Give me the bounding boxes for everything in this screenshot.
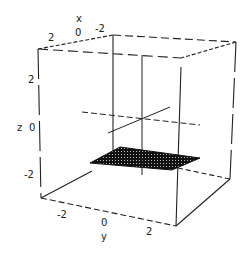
3d-surface-plot: x 2 0 -2 2 z 0 -2 -2 0 y 2 xyxy=(0,0,249,256)
y-tick-0: -2 xyxy=(57,209,67,220)
surface-plane xyxy=(90,147,200,170)
x-tick-1: 0 xyxy=(75,27,81,38)
x-tick-2: -2 xyxy=(95,23,105,34)
z-tick-0: 2 xyxy=(28,74,34,85)
y-axis-label: y xyxy=(101,231,107,242)
z-tick-1: 0 xyxy=(29,122,35,133)
x-axis-label: x xyxy=(76,13,82,24)
y-tick-1: 0 xyxy=(101,217,107,228)
y-tick-2: 2 xyxy=(146,226,152,237)
z-axis-label: z xyxy=(17,122,22,133)
origin-axes xyxy=(82,55,200,166)
bounding-box xyxy=(38,35,236,226)
z-tick-2: -2 xyxy=(24,169,34,180)
x-tick-0: 2 xyxy=(48,32,54,43)
